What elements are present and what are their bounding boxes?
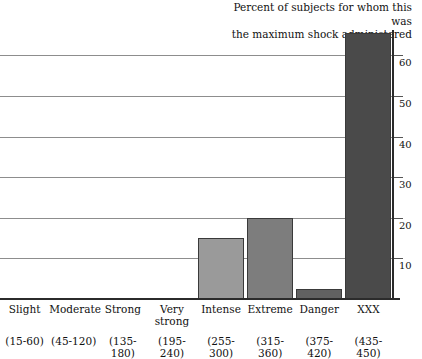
bar — [345, 33, 391, 299]
y-axis-tick — [394, 258, 403, 259]
gridline — [0, 177, 393, 178]
x-axis-category-range: (315-360) — [246, 335, 295, 359]
y-axis-tick — [394, 177, 403, 178]
x-axis-category: Danger(375-420) — [295, 303, 344, 315]
y-axis-tick — [394, 218, 403, 219]
y-axis-tick-label: 60 — [399, 58, 412, 68]
gridline — [0, 258, 393, 259]
x-axis-category: Strong(135-180) — [98, 303, 147, 315]
x-axis-category: Very strong(195-240) — [147, 303, 196, 327]
gridline — [0, 55, 393, 56]
gridline — [0, 96, 393, 97]
x-axis-category: Moderate(45-120) — [49, 303, 98, 315]
x-axis-category-label: Slight — [0, 303, 49, 315]
y-axis-tick-label: 40 — [399, 140, 412, 150]
y-axis-tick — [394, 96, 403, 97]
x-axis-category-label: XXX — [344, 303, 393, 315]
x-axis-line — [0, 298, 400, 300]
x-axis-category-range: (435-450) — [344, 335, 393, 359]
y-axis-tick-label: 10 — [399, 261, 412, 271]
x-axis-category: Intense(255-300) — [197, 303, 246, 315]
x-axis-category-range: (135-180) — [98, 335, 147, 359]
x-axis-category-label: Moderate — [49, 303, 98, 315]
x-axis-category-label: Danger — [295, 303, 344, 315]
y-axis-tick — [394, 55, 403, 56]
x-axis-category-label: Extreme — [246, 303, 295, 315]
bar — [247, 218, 293, 299]
x-axis-category: XXX(435-450) — [344, 303, 393, 315]
plot-area — [0, 0, 393, 300]
x-axis-category-range: (15-60) — [0, 335, 49, 347]
y-axis-tick-label: 20 — [399, 221, 412, 231]
bar — [198, 238, 244, 299]
x-axis-category-range: (45-120) — [49, 335, 98, 347]
gridline — [0, 218, 393, 219]
y-axis-tick — [394, 137, 403, 138]
x-axis-category-range: (195-240) — [147, 335, 196, 359]
x-axis-category-label: Strong — [98, 303, 147, 315]
y-axis-line — [392, 30, 394, 300]
y-axis-tick-label: 30 — [399, 180, 412, 190]
x-axis-category-range: (375-420) — [295, 335, 344, 359]
y-axis-tick-label: 50 — [399, 99, 412, 109]
x-axis-category-label: Intense — [197, 303, 246, 315]
gridline — [0, 137, 393, 138]
x-axis-category-label: Very strong — [147, 303, 196, 327]
x-axis-category: Slight(15-60) — [0, 303, 49, 315]
x-axis-labels: Slight(15-60)Moderate(45-120)Strong(135-… — [0, 303, 393, 351]
x-axis-category: Extreme(315-360) — [246, 303, 295, 315]
x-axis-category-range: (255-300) — [197, 335, 246, 359]
